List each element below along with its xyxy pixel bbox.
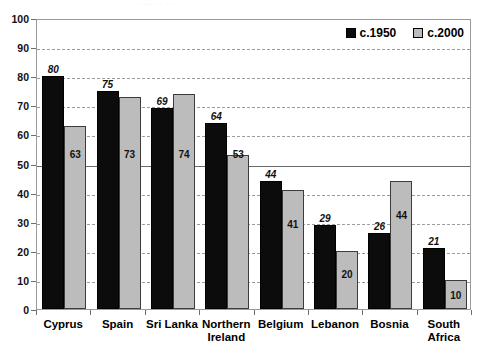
- bar[interactable]: [368, 233, 390, 309]
- y-tick-label: 10: [0, 276, 29, 286]
- bar[interactable]: [282, 190, 304, 309]
- y-tick-label: 80: [0, 72, 29, 82]
- x-tick-mark: [362, 310, 363, 315]
- bar-value-label: 80: [36, 65, 70, 75]
- x-tick-mark: [90, 310, 91, 315]
- y-tick-label: 90: [0, 43, 29, 53]
- bar-value-label: 63: [58, 150, 92, 160]
- bar-value-label: 10: [439, 291, 473, 301]
- bar[interactable]: [173, 94, 195, 309]
- bar[interactable]: [119, 97, 141, 309]
- bar-value-label: 21: [417, 237, 451, 247]
- bar[interactable]: [227, 155, 249, 309]
- bar-chart: · ·· ··· ·· ··· · 1009080706050403020100…: [0, 0, 489, 363]
- y-axis: 1009080706050403020100: [0, 0, 31, 363]
- cropped-header-text: · ·· ··· ·· ··· ·: [130, 0, 430, 7]
- bar-value-label: 74: [167, 150, 201, 160]
- x-tick-mark: [36, 310, 37, 315]
- x-axis-label: SouthAfrica: [411, 318, 477, 344]
- y-tick-label: 100: [0, 14, 29, 24]
- bar[interactable]: [390, 181, 412, 309]
- y-tick-label: 20: [0, 247, 29, 257]
- x-tick-mark: [417, 310, 418, 315]
- bar-value-label: 29: [308, 214, 342, 224]
- bar-value-label: 53: [221, 150, 255, 160]
- x-tick-mark: [254, 310, 255, 315]
- bar-value-label: 75: [91, 80, 125, 90]
- bar[interactable]: [42, 76, 64, 309]
- y-tick-label: 30: [0, 218, 29, 228]
- bar-value-label: 44: [254, 170, 288, 180]
- bar-value-label: 41: [276, 220, 310, 230]
- x-axis-label-line2: Africa: [411, 331, 477, 344]
- bar-value-label: 20: [330, 270, 364, 280]
- x-tick-mark: [308, 310, 309, 315]
- x-axis-label-line1: South: [411, 318, 477, 331]
- bar-value-label: 44: [384, 211, 418, 221]
- bar[interactable]: [97, 91, 119, 309]
- y-tick-label: 40: [0, 189, 29, 199]
- bar[interactable]: [314, 225, 336, 309]
- y-tick-label: 0: [0, 305, 29, 315]
- bar-value-label: 73: [113, 150, 147, 160]
- x-tick-mark: [471, 310, 472, 315]
- bar-value-label: 64: [199, 112, 233, 122]
- plot-area: c.1950c.2000 806375736974645344412920264…: [36, 19, 471, 310]
- y-tick-label: 50: [0, 160, 29, 170]
- x-tick-mark: [145, 310, 146, 315]
- bar[interactable]: [151, 108, 173, 309]
- bar[interactable]: [260, 181, 282, 309]
- x-axis: CyprusSpainSri LankaNorthernIrelandBelgi…: [36, 310, 471, 363]
- y-tick-label: 60: [0, 130, 29, 140]
- bars-layer: 80637573697464534441292026442110: [37, 20, 470, 309]
- x-tick-mark: [199, 310, 200, 315]
- y-tick-label: 70: [0, 101, 29, 111]
- x-axis-label-line2: Ireland: [193, 331, 259, 344]
